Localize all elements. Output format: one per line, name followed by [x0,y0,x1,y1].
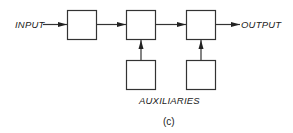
arrowhead-icon [58,22,67,27]
aux-block-1 [127,61,156,90]
block-diagram: INPUT OUTPUT AUXILIARIES (c) [0,0,293,133]
aux-block-2 [187,61,216,90]
input-label: INPUT [15,19,45,30]
block-2 [127,11,156,40]
block-1 [68,11,97,40]
figure-caption: (c) [163,116,175,127]
arrowhead-icon [199,40,204,49]
arrowhead-icon [117,22,126,27]
arrowhead-icon [231,22,240,27]
output-label: OUTPUT [241,19,282,30]
auxiliaries-label: AUXILIARIES [138,95,200,106]
arrowhead-icon [139,40,144,49]
block-3 [187,11,216,40]
arrowhead-icon [177,22,186,27]
